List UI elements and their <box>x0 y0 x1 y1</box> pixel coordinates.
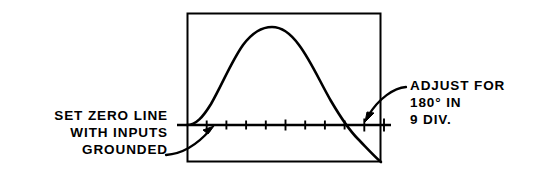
adjust-for-180-callout-line-2: 180° IN <box>410 94 536 111</box>
left-callout-arrowhead <box>203 126 214 134</box>
set-zero-line-callout-line-2: WITH INPUTS <box>8 124 168 141</box>
set-zero-line-callout: SET ZERO LINE WITH INPUTS GROUNDED <box>8 107 168 158</box>
right-callout-arrowhead <box>365 112 374 122</box>
set-zero-line-callout-line-3: GROUNDED <box>8 141 168 158</box>
oscilloscope-phase-calibration-diagram: SET ZERO LINE WITH INPUTS GROUNDED ADJUS… <box>0 0 540 172</box>
set-zero-line-callout-line-1: SET ZERO LINE <box>8 107 168 124</box>
right-callout-leader-line <box>368 87 406 116</box>
oscilloscope-screen-graticule <box>188 14 381 162</box>
adjust-for-180-callout-line-3: 9 DIV. <box>410 111 536 128</box>
sine-waveform-trace <box>187 27 381 162</box>
adjust-for-180-callout: ADJUST FOR 180° IN 9 DIV. <box>410 77 536 128</box>
adjust-for-180-callout-line-1: ADJUST FOR <box>410 77 536 94</box>
